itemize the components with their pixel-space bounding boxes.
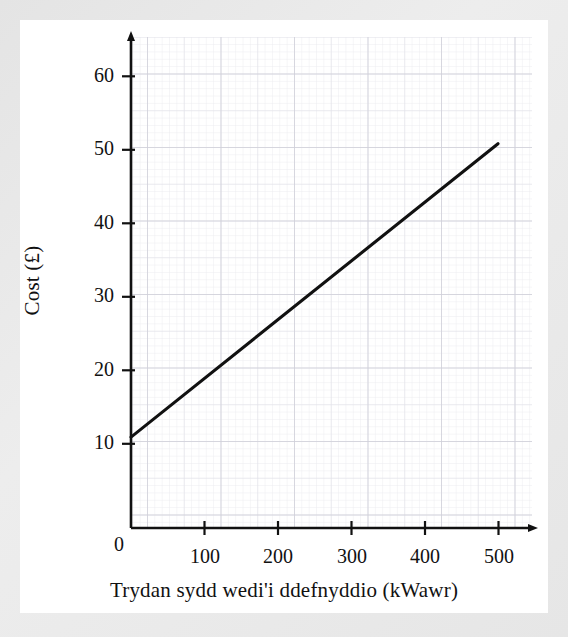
x-tick-label-500: 500 bbox=[469, 545, 529, 568]
x-tick-label-300: 300 bbox=[322, 545, 382, 568]
y-tick-label-20: 20 bbox=[62, 358, 114, 381]
x-tick-label-200: 200 bbox=[248, 545, 308, 568]
x-axis-title: Trydan sydd wedi'i ddefnyddio (kWawr) bbox=[0, 578, 568, 603]
line-chart bbox=[0, 0, 568, 637]
origin-label: 0 bbox=[114, 533, 124, 556]
grid-area bbox=[131, 37, 532, 528]
y-tick-label-10: 10 bbox=[62, 431, 114, 454]
y-tick-label-60: 60 bbox=[62, 64, 114, 87]
y-tick-label-30: 30 bbox=[62, 284, 114, 307]
figure-page: 60 50 40 30 20 10 0 100 200 300 400 500 … bbox=[0, 0, 568, 637]
x-tick-label-400: 400 bbox=[395, 545, 455, 568]
y-axis-title: Cost (£) bbox=[20, 221, 45, 341]
y-tick-label-50: 50 bbox=[62, 137, 114, 160]
y-tick-label-40: 40 bbox=[62, 211, 114, 234]
x-tick-label-100: 100 bbox=[175, 545, 235, 568]
